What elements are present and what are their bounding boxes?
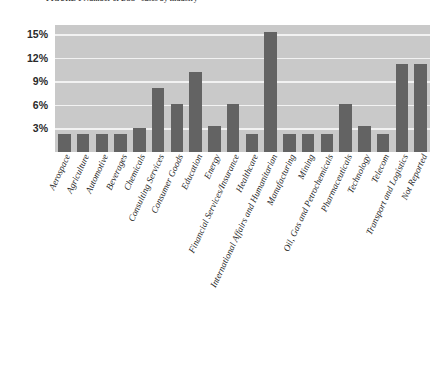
bar[interactable] [189, 72, 201, 152]
bar[interactable] [77, 134, 89, 152]
bar[interactable] [321, 134, 333, 152]
bar[interactable] [152, 88, 164, 152]
bar[interactable] [58, 134, 70, 152]
bar[interactable] [208, 126, 220, 152]
bar[interactable] [133, 128, 145, 152]
bar[interactable] [358, 126, 370, 152]
bar[interactable] [264, 32, 276, 152]
y-axis-tick-label: 6% [33, 99, 48, 111]
bar[interactable] [396, 64, 408, 152]
x-axis: AerospaceAgricultureAutomotiveBeveragesC… [55, 153, 430, 303]
bar[interactable] [114, 134, 126, 152]
bar[interactable] [227, 104, 239, 152]
y-axis: 3%6%9%12%15% [0, 25, 53, 152]
bar[interactable] [339, 104, 351, 152]
y-axis-tick-label: 15% [27, 28, 48, 40]
chart-title: FIGURE 1 Number of DSS* cases by industr… [46, 0, 346, 4]
bar[interactable] [171, 104, 183, 152]
bar[interactable] [302, 134, 314, 152]
y-axis-tick-label: 9% [33, 75, 48, 87]
bar[interactable] [414, 64, 426, 152]
y-axis-tick-label: 3% [33, 122, 48, 134]
bar[interactable] [283, 134, 295, 152]
bar[interactable] [246, 134, 258, 152]
bar[interactable] [96, 134, 108, 152]
bar[interactable] [377, 134, 389, 152]
bars-layer [55, 25, 430, 152]
plot-area [55, 25, 430, 152]
bar-chart-figure: FIGURE 1 Number of DSS* cases by industr… [0, 0, 447, 389]
y-axis-tick-label: 12% [27, 52, 48, 64]
